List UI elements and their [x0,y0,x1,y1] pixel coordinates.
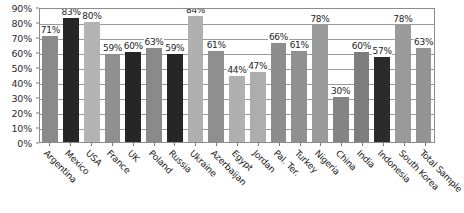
bar-value-label: 78% [310,14,330,24]
bar[interactable] [312,25,328,142]
bar-slot: 83% [61,9,82,142]
bar[interactable] [333,97,349,142]
plot-area: 71%83%80%59%60%63%59%84%61%44%47%66%61%7… [39,8,435,143]
bar-slot: 61% [289,9,310,142]
bar-value-label: 84% [185,8,205,15]
bar-slot: 61% [206,9,227,142]
bar[interactable] [105,54,121,143]
bar-slot: 66% [268,9,289,142]
x-axis-tick-mark [425,143,426,146]
bar-slot: 60% [351,9,372,142]
x-axis-label-slot: Argentina [39,148,60,208]
bar-slot: 80% [81,9,102,142]
bar[interactable] [188,16,204,142]
bar-value-label: 63% [144,37,164,47]
x-axis-tick-mark [195,143,196,146]
bar-slot: 59% [102,9,123,142]
bar[interactable] [416,48,432,143]
x-axis-label-slot: USA [81,148,102,208]
x-axis-label-slot: Russia [164,148,185,208]
bar[interactable] [63,18,79,143]
bar-value-label: 47% [248,61,268,71]
bar-slot: 60% [123,9,144,142]
x-axis-label-slot: Azerbaijan [206,148,227,208]
bar-slot: 30% [330,9,351,142]
bar[interactable] [271,43,287,142]
x-axis-tick-mark [258,143,259,146]
x-axis-label-slot: France [102,148,123,208]
x-axis-label-slot: Jordan [247,148,268,208]
bar-value-label: 80% [82,11,102,21]
bar-value-label: 30% [331,86,351,96]
x-axis-label-slot: Ukraine [185,148,206,208]
x-axis-tick-mark [216,143,217,146]
bar[interactable] [229,76,245,142]
bar-value-label: 60% [351,41,371,51]
bar[interactable] [167,54,183,143]
x-axis-tick-mark [154,143,155,146]
y-axis-tick-label: 40% [11,78,32,89]
bar[interactable] [208,51,224,143]
bar[interactable] [395,25,411,142]
x-axis-label-slot: Nigeria [310,148,331,208]
x-axis-tick-mark [341,143,342,146]
bar-slot: 63% [413,9,434,142]
bar[interactable] [146,48,162,143]
bar-value-label: 44% [227,65,247,75]
x-axis-label-slot: Poland [143,148,164,208]
bar[interactable] [84,22,100,142]
x-axis-label-slot: Egypt [227,148,248,208]
bar-value-label: 61% [289,40,309,50]
bar-value-label: 78% [393,14,413,24]
bar-slot: 78% [393,9,414,142]
bar[interactable] [125,52,141,142]
bar-slot: 78% [310,9,331,142]
bar-slot: 71% [40,9,61,142]
x-axis-tick-mark [174,143,175,146]
x-axis-tick-mark [362,143,363,146]
bar-value-label: 61% [206,40,226,50]
x-axis-tick-mark [404,143,405,146]
bar-slot: 44% [227,9,248,142]
bar-value-label: 60% [123,41,143,51]
bar[interactable] [250,72,266,143]
bar-slot: 59% [164,9,185,142]
y-axis-tick-label: 10% [11,123,32,134]
x-axis-label-slot: India [352,148,373,208]
x-axis-label-slot: UK [122,148,143,208]
x-axis-tick-mark [91,143,92,146]
y-axis: 0%10%20%30%40%50%60%70%80%90% [0,8,36,143]
x-axis-tick-label: Total Sample [417,148,463,194]
bar-value-label: 59% [165,43,185,53]
bar[interactable] [42,36,58,143]
bar-slot: 47% [247,9,268,142]
x-axis-label-slot: China [331,148,352,208]
bar-slot: 57% [372,9,393,142]
bar[interactable] [291,51,307,143]
bar-value-label: 59% [103,43,123,53]
y-axis-tick-label: 60% [11,48,32,59]
y-axis-tick-label: 90% [11,3,32,14]
bar[interactable] [374,57,390,143]
x-axis-tick-mark [320,143,321,146]
x-axis-tick-mark [237,143,238,146]
x-axis-tick-mark [279,143,280,146]
x-axis-label-slot: Pal. Ter. [268,148,289,208]
bar-value-label: 71% [40,25,60,35]
y-axis-tick-label: 20% [11,108,32,119]
bar-value-label: 83% [61,8,81,17]
bar[interactable] [354,52,370,142]
bar-slot: 63% [144,9,165,142]
y-axis-tick-label: 50% [11,63,32,74]
y-axis-tick-label: 30% [11,93,32,104]
x-axis-tick-mark [383,143,384,146]
bar-value-label: 66% [268,32,288,42]
x-axis-label-slot: Total Sample [414,148,435,208]
x-axis-tick-mark [133,143,134,146]
x-axis-tick-mark [49,143,50,146]
x-axis-label-slot: Turkey [289,148,310,208]
bar-value-label: 63% [414,37,434,47]
bar-value-label: 57% [372,46,392,56]
x-axis: ArgentinaMexicoUSAFranceUKPolandRussiaUk… [39,143,435,213]
